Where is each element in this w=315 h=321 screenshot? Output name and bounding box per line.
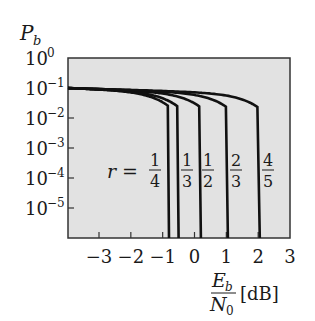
rate-denominator: 5 (263, 172, 273, 191)
bit-error-rate-chart: 10010−110−210−310−410−5 −3−2−10123 r =14… (0, 0, 315, 321)
x-label-den-sub: 0 (226, 304, 234, 318)
rate-denominator: 4 (150, 172, 160, 191)
y-tick-exponent: −5 (47, 196, 65, 210)
y-tick-exponent: −4 (47, 166, 65, 180)
y-tick-exponent: −2 (47, 106, 65, 120)
x-tick-label: −3 (86, 246, 113, 267)
rate-denominator: 2 (203, 172, 213, 191)
rate-denominator: 3 (231, 172, 241, 191)
x-tick-label: 2 (252, 246, 263, 267)
y-tick-label: 10 (25, 138, 48, 159)
x-axis-label: E b N 0 [dB] (209, 269, 279, 318)
y-tick-exponent: −3 (47, 136, 65, 150)
y-tick-label: 10 (25, 108, 48, 129)
x-tick-label: 0 (189, 246, 200, 267)
y-tick-label: 10 (25, 198, 48, 219)
y-tick-label: 10 (25, 78, 48, 99)
y-label-main: P (19, 21, 34, 45)
x-tick-label: 3 (284, 246, 295, 267)
x-tick-label: 1 (221, 246, 232, 267)
y-tick-exponent: 0 (47, 46, 55, 60)
y-axis: 10010−110−210−310−410−5 (25, 46, 74, 219)
x-tick-label: −2 (118, 246, 145, 267)
rate-denominator: 3 (182, 172, 192, 191)
y-tick-label: 10 (25, 48, 48, 69)
rate-numerator: 2 (231, 151, 241, 170)
rate-numerator: 1 (203, 151, 213, 170)
y-axis-label: P b (19, 21, 41, 48)
x-label-unit: [dB] (240, 283, 279, 304)
rate-numerator: 4 (263, 151, 273, 170)
y-tick-label: 10 (25, 168, 48, 189)
rate-numerator: 1 (150, 151, 160, 170)
x-label-num-sub: b (225, 280, 233, 294)
y-label-sub: b (33, 33, 41, 48)
x-label-num: E (211, 269, 226, 291)
y-tick-exponent: −1 (47, 76, 65, 90)
rate-numerator: 1 (182, 151, 192, 170)
annotation-prefix: r = (107, 160, 138, 182)
x-tick-label: −1 (149, 246, 176, 267)
